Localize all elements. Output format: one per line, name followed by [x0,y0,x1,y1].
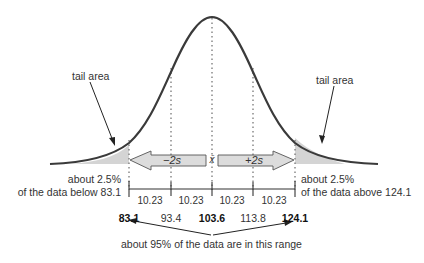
right-tail-text-line2: of the data above 124.1 [301,186,411,198]
left-tail-text-line1: about 2.5% [68,173,121,185]
axis-value-mean: 103.6 [199,212,225,224]
left-tail-label: tail area [72,70,109,82]
range-pointer-right [213,223,286,235]
axis-value-minus-1s: 93.4 [161,212,181,224]
segment-width: 10.23 [178,195,203,206]
right-tail-pointer [323,86,334,138]
bell-curve [50,17,378,164]
left-tail-text-line2: of the data below 83.1 [18,186,121,198]
range-caption: about 95% of the data are in this range [121,238,302,250]
segment-width: 10.23 [137,195,162,206]
plus-2s-label: +2s [245,154,263,166]
left-tail-pointer [90,82,113,141]
segment-width: 10.23 [219,195,244,206]
axis-value-minus-2s: 83.1 [119,212,139,224]
right-tail-label: tail area [316,74,353,86]
minus-2s-label: −2s [163,154,181,166]
right-tail-text-line1: about 2.5% [301,173,354,185]
axis-value-plus-1s: 113.8 [240,212,266,224]
normal-distribution-diagram: tail area tail area about 2.5% of the da… [0,0,424,263]
axis-value-plus-2s: 124.1 [282,212,308,224]
mean-symbol: x̄ [210,154,215,165]
segment-width: 10.23 [261,195,286,206]
